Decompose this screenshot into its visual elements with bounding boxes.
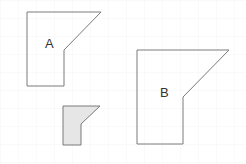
background-grid bbox=[0, 0, 246, 164]
diagram-canvas: A B bbox=[0, 0, 246, 164]
shape-b-label: B bbox=[160, 85, 169, 100]
shape-a-label: A bbox=[45, 36, 54, 51]
